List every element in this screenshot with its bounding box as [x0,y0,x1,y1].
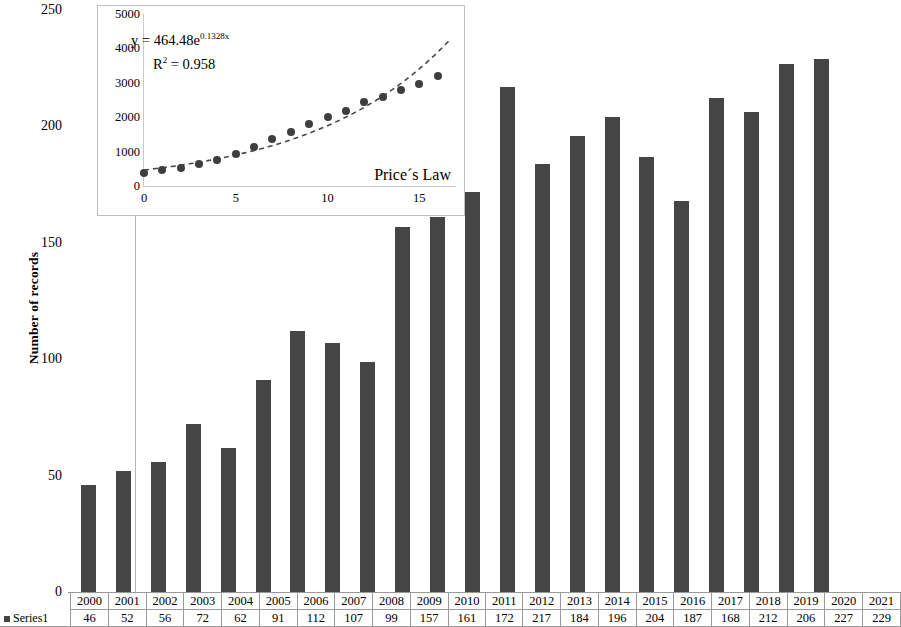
table-value-2012: 217 [523,610,561,627]
table-header-2019: 2019 [787,593,825,610]
table-value-2020: 227 [825,610,863,627]
y-tick-250: 250 [28,3,62,17]
table-row-values: Series1 46525672629111210799157161172217… [0,610,901,627]
inset-x-axis-line [143,186,456,187]
bar-2012 [500,87,515,592]
table-header-2016: 2016 [674,593,712,610]
table-series-label: Series1 [13,611,48,625]
bar-2004 [221,448,236,592]
inset-x-tick-15: 15 [407,191,431,206]
bar-2005 [256,380,271,592]
table-value-2005: 91 [259,610,297,627]
table-header-2014: 2014 [598,593,636,610]
bar-2001 [116,471,131,592]
table-row-headers: 2000200120022003200420052006200720082009… [0,593,901,610]
table-header-2021: 2021 [863,593,901,610]
table-value-2007: 107 [335,610,373,627]
bar-2008 [360,362,375,592]
bar-2003 [186,424,201,592]
inset-point-14 [397,86,405,94]
inset-y-tick-1000: 1000 [100,146,140,158]
table-value-2001: 52 [108,610,146,627]
table-value-2019: 206 [787,610,825,627]
inset-y-tick-3000: 3000 [100,77,140,89]
bar-2002 [151,462,166,592]
table-header-2009: 2009 [410,593,448,610]
inset-point-2 [177,164,185,172]
inset-fit-curve [144,14,456,186]
bar-2006 [290,331,305,592]
inset-y-tick-5000: 5000 [100,8,140,20]
y-axis-ticks: 250200150100500 [0,0,62,626]
table-header-2020: 2020 [825,593,863,610]
y-tick-150: 150 [28,236,62,250]
table-header-2012: 2012 [523,593,561,610]
table-value-2010: 161 [448,610,486,627]
table-value-2017: 168 [712,610,750,627]
bar-2018 [709,98,724,592]
table-header-2001: 2001 [108,593,146,610]
bar-2000 [81,485,96,592]
table-value-2015: 204 [636,610,674,627]
table-value-2016: 187 [674,610,712,627]
y-tick-50: 50 [28,469,62,483]
table-value-2021: 229 [863,610,901,627]
bar-2014 [570,136,585,592]
y-tick-100: 100 [28,352,62,366]
legend-marker-icon [4,616,10,622]
inset-point-5 [232,150,240,158]
inset-scatter-chart: 500040003000200010000 051015 y = 464.48e… [97,5,465,216]
table-value-2013: 184 [561,610,599,627]
bar-2011 [465,192,480,592]
table-header-2010: 2010 [448,593,486,610]
table-header-2017: 2017 [712,593,750,610]
table-header-2011: 2011 [486,593,523,610]
inset-x-tick-0: 0 [132,191,156,206]
inset-y-tick-2000: 2000 [100,111,140,123]
inset-point-16 [434,72,442,80]
inset-point-11 [342,107,350,115]
table-value-2002: 56 [146,610,184,627]
table-header-2005: 2005 [259,593,297,610]
table-header-2002: 2002 [146,593,184,610]
table-value-2006: 112 [297,610,335,627]
bar-2010 [430,217,445,592]
y-tick-200: 200 [28,119,62,133]
table-corner-cell [0,593,71,610]
bar-2016 [639,157,654,592]
table-value-2011: 172 [486,610,523,627]
table-value-2008: 99 [373,610,411,627]
bar-2021 [814,59,829,592]
table-header-2015: 2015 [636,593,674,610]
bar-2009 [395,227,410,592]
data-table: 2000200120022003200420052006200720082009… [0,592,901,627]
bar-2013 [535,164,550,592]
table-header-2004: 2004 [222,593,260,610]
table-value-2014: 196 [598,610,636,627]
table-header-2000: 2000 [71,593,109,610]
bar-2015 [605,117,620,592]
inset-point-13 [379,93,387,101]
table-value-2009: 157 [410,610,448,627]
bar-2019 [744,112,759,592]
bar-2020 [779,64,794,592]
table-header-2007: 2007 [335,593,373,610]
bar-2017 [674,201,689,592]
inset-plot-area [144,14,456,186]
inset-x-tick-5: 5 [224,191,248,206]
inset-x-tick-10: 10 [316,191,340,206]
inset-point-10 [324,113,332,121]
table-header-2003: 2003 [184,593,222,610]
bar-2007 [325,343,340,592]
table-value-2018: 212 [749,610,787,627]
table-header-2006: 2006 [297,593,335,610]
table-header-2018: 2018 [749,593,787,610]
table-header-2013: 2013 [561,593,599,610]
inset-point-8 [287,128,295,136]
table-header-2008: 2008 [373,593,411,610]
table-value-2003: 72 [184,610,222,627]
table-value-2000: 46 [71,610,109,627]
table-series-legend: Series1 [0,610,71,627]
table-value-2004: 62 [222,610,260,627]
